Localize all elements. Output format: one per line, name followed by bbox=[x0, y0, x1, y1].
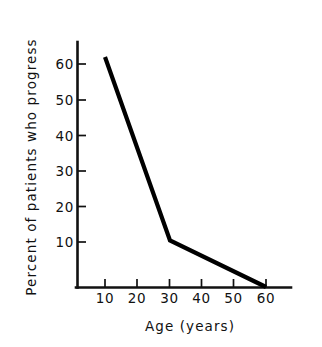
x-axis-tick-labels: 10 20 30 40 50 60 bbox=[96, 290, 275, 306]
x-tick-label-50: 50 bbox=[224, 290, 242, 306]
y-axis-ticks bbox=[78, 64, 86, 242]
data-series-line bbox=[105, 57, 266, 287]
y-tick-label-20: 20 bbox=[56, 199, 74, 215]
y-tick-label-30: 30 bbox=[56, 163, 74, 179]
chart-figure: 60 50 40 30 20 10 10 20 30 40 50 60 bbox=[0, 0, 322, 347]
y-tick-label-60: 60 bbox=[56, 56, 74, 72]
y-tick-label-50: 50 bbox=[56, 92, 74, 108]
x-tick-label-30: 30 bbox=[160, 290, 178, 306]
line-chart-plot: 60 50 40 30 20 10 10 20 30 40 50 60 bbox=[0, 0, 322, 347]
y-axis-tick-labels: 60 50 40 30 20 10 bbox=[56, 56, 74, 250]
x-axis-title: Age (years) bbox=[145, 318, 235, 334]
y-axis-title: Percent of patients who progress bbox=[23, 38, 39, 295]
x-tick-label-60: 60 bbox=[257, 290, 275, 306]
y-tick-label-10: 10 bbox=[56, 234, 74, 250]
x-tick-label-20: 20 bbox=[128, 290, 146, 306]
x-axis-ticks bbox=[105, 279, 266, 287]
x-tick-label-40: 40 bbox=[192, 290, 210, 306]
y-tick-label-40: 40 bbox=[56, 128, 74, 144]
x-tick-label-10: 10 bbox=[96, 290, 114, 306]
